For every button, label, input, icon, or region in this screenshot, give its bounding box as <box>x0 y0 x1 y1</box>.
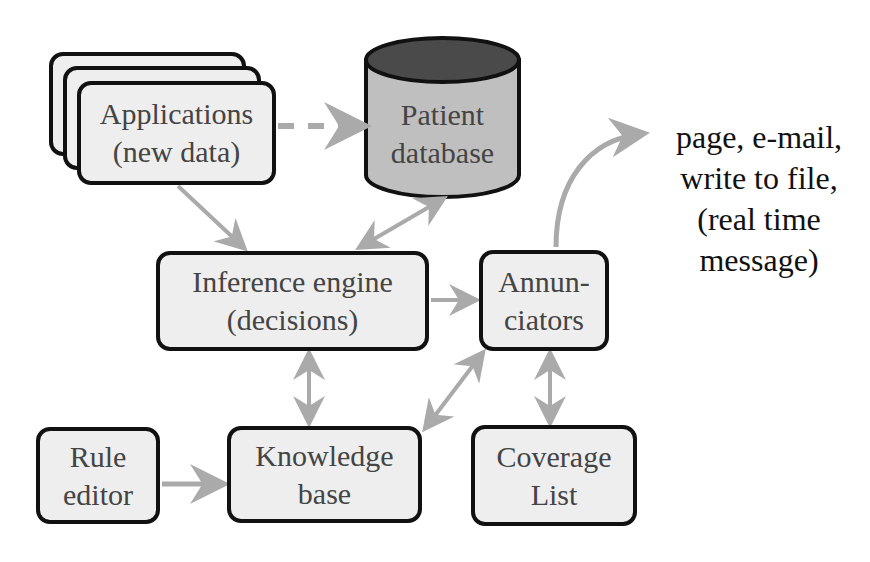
node-patient-database: Patient database <box>366 96 519 172</box>
annunciators-label-2: ciators <box>504 301 584 339</box>
arrow-annunciators-knowledge <box>427 355 481 426</box>
rule-editor-label-1: Rule <box>70 438 127 476</box>
coverage-list-label-1: Coverage <box>497 438 612 476</box>
outputs-line-4: message) <box>649 240 869 281</box>
rule-editor-label-2: editor <box>63 476 133 514</box>
outputs-line-3: (real time <box>649 199 869 240</box>
outputs-line-2: write to file, <box>649 158 869 199</box>
annunciators-label-1: Annun- <box>498 263 590 301</box>
applications-label-2: (new data) <box>113 133 240 171</box>
coverage-list-label-2: List <box>531 476 578 514</box>
arrow-inference-database <box>362 200 441 246</box>
node-applications: Applications (new data) <box>77 81 276 185</box>
patient-database-label-1: Patient <box>366 96 519 134</box>
patient-database-label-2: database <box>366 134 519 172</box>
applications-label-1: Applications <box>100 95 253 133</box>
outputs-text: page, e-mail, write to file, (real time … <box>649 117 869 281</box>
inference-engine-label-1: Inference engine <box>192 263 393 301</box>
knowledge-base-label-2: base <box>298 475 351 513</box>
node-knowledge-base: Knowledge base <box>227 426 422 523</box>
inference-engine-label-2: (decisions) <box>227 301 359 339</box>
node-rule-editor: Rule editor <box>36 427 160 524</box>
outputs-line-1: page, e-mail, <box>649 117 869 158</box>
node-coverage-list: Coverage List <box>471 425 637 526</box>
node-inference-engine: Inference engine (decisions) <box>156 251 429 351</box>
knowledge-base-label-1: Knowledge <box>255 437 393 475</box>
arrow-annunciators-to-outputs <box>556 134 640 247</box>
arrow-applications-to-inference <box>178 186 242 246</box>
node-annunciators: Annun- ciators <box>479 250 609 351</box>
